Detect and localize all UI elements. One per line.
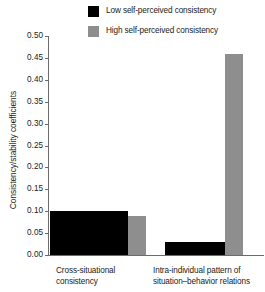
x-axis-line <box>48 255 264 256</box>
bar-cross-situational-low <box>50 211 128 255</box>
bar-chart: Consistency/stability coefficients 0.50 … <box>0 0 265 292</box>
y-tick-020: 0.20 <box>27 163 43 171</box>
bar-intra-individual-high <box>225 54 243 255</box>
bar-cross-situational-high <box>128 216 146 255</box>
y-tick-010: 0.10 <box>27 207 43 215</box>
y-tick-050: 0.50 <box>27 32 43 40</box>
x-category-label-1-line2: consistency <box>56 276 98 287</box>
y-tick-015: 0.15 <box>27 185 43 193</box>
x-category-label-1-line1: Cross-situational <box>56 265 115 276</box>
y-tick-005: 0.05 <box>27 229 43 237</box>
x-category-label-2-line2: situation–behavior relations <box>153 276 250 287</box>
y-tick-025: 0.25 <box>27 142 43 150</box>
bar-intra-individual-low <box>165 242 225 255</box>
y-axis-line <box>48 36 49 256</box>
y-tick-040: 0.40 <box>27 76 43 84</box>
y-tick-045: 0.45 <box>27 54 43 62</box>
x-category-label-2-line1: Intra-individual pattern of <box>153 265 240 276</box>
y-axis-tick-labels: 0.50 0.45 0.40 0.35 0.30 0.25 0.20 0.15 … <box>0 0 46 292</box>
y-tick-035: 0.35 <box>27 98 43 106</box>
y-tick-030: 0.30 <box>27 120 43 128</box>
y-tick-000: 0.00 <box>27 251 43 259</box>
